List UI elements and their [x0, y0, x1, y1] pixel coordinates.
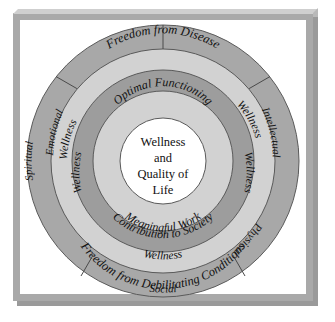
core-line-3: Quality of: [137, 167, 189, 181]
plate-bevel-top: [13, 9, 318, 14]
core-line-1: Wellness: [141, 135, 186, 149]
core-line-2: and: [154, 151, 173, 165]
plate-shadow-right: [313, 17, 318, 306]
outer-segment-label-spiritual: Spiritual: [21, 140, 34, 181]
wellness-wheel-diagram: Emotional Intellectual Physical Social S…: [20, 18, 306, 304]
core-line-4: Life: [153, 183, 174, 197]
